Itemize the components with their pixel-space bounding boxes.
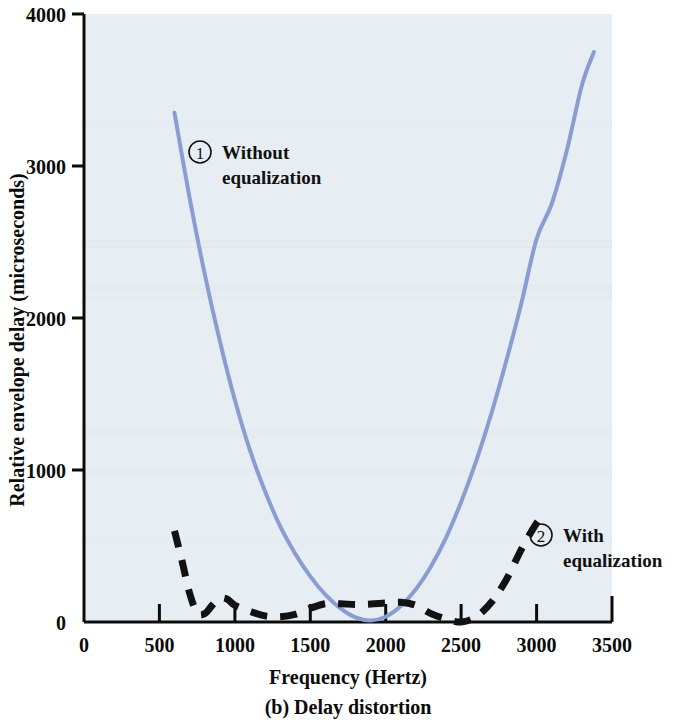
y-axis-title: Relative envelope delay (microseconds) [6, 173, 29, 506]
y-tick-label-2000: 2000 [26, 308, 66, 330]
x-tick-label-2500: 2500 [441, 634, 481, 656]
x-tick-label-500: 500 [144, 634, 174, 656]
y-tick-label-3000: 3000 [26, 156, 66, 178]
x-tick-label-3500: 3500 [592, 634, 632, 656]
annot-without-equalization-line1: Without [222, 142, 290, 163]
y-tick-label-0: 0 [56, 612, 66, 634]
x-axis-title: Frequency (Hertz) [269, 666, 427, 689]
circled-number-1-label: 1 [196, 144, 205, 163]
annot-without-equalization-line2: equalization [222, 167, 322, 188]
figure-caption: (b) Delay distortion [265, 696, 432, 719]
x-tick-label-1000: 1000 [215, 634, 255, 656]
x-tick-label-0: 0 [79, 634, 89, 656]
x-tick-label-2000: 2000 [366, 634, 406, 656]
y-tick-label-4000: 4000 [26, 4, 66, 26]
figure-container: 4000 3000 2000 1000 0 0 500 1000 1500 20… [0, 0, 681, 720]
circled-number-2-label: 2 [537, 527, 546, 546]
x-tick-label-1500: 1500 [290, 634, 330, 656]
y-tick-label-1000: 1000 [26, 460, 66, 482]
x-tick-label-3000: 3000 [517, 634, 557, 656]
delay-distortion-chart: 4000 3000 2000 1000 0 0 500 1000 1500 20… [0, 0, 681, 720]
annot-with-equalization-line1: With [563, 525, 604, 546]
y-axis-ticks [72, 14, 84, 470]
annot-with-equalization-line2: equalization [563, 550, 663, 571]
